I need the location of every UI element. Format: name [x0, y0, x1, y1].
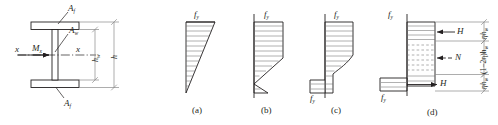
dimension-label-eta-hw-bottom: ηhw [480, 78, 489, 89]
dimension-label-eta-hw-top: ηhw [480, 28, 489, 39]
stress-label-fy-a-top: fy [194, 10, 199, 20]
caption-b: (b) [261, 106, 272, 115]
caption-a: (a) [192, 106, 202, 115]
engineering-figure: Af Aw Af Mx x x hw h fy (a) fy (b) fy fy… [0, 0, 498, 125]
caption-c: (c) [331, 106, 341, 115]
label-bottom-flange-area: Af [64, 99, 71, 109]
label-top-flange-area: Af [68, 4, 75, 14]
label-axis-x-right: x [76, 45, 80, 54]
dimension-label-hw: hw [92, 54, 101, 62]
stress-label-fy-c-top: fy [334, 10, 339, 20]
stress-diagram-a [186, 22, 215, 93]
stress-label-fy-d-bottom: fy [381, 93, 386, 103]
leader-bottom-flange [56, 88, 64, 99]
stress-label-fy-b-top: fy [264, 10, 269, 20]
label-moment-mx: Mx [32, 44, 42, 54]
dimension-label-h: h [111, 55, 119, 59]
figure-canvas [0, 0, 498, 125]
stress-label-fy-d-top: fy [388, 10, 393, 20]
stress-label-fy-c-bottom: fy [310, 94, 315, 104]
label-axis-x-left: x [15, 45, 19, 54]
force-label-H-bottom: H [440, 79, 447, 88]
label-web-area: Aw [69, 26, 78, 36]
caption-d: (d) [427, 108, 438, 117]
force-label-N-middle: N [455, 53, 461, 62]
force-label-H-top: H [457, 27, 464, 36]
dimension-label-one-minus-two-eta-hw: (1−2η)hw [480, 46, 489, 74]
